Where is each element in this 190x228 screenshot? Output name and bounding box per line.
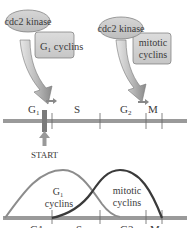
bottom-phase-g1: G1 (30, 223, 43, 228)
g1-cyclins-box: G1 cyclins (35, 32, 83, 58)
cdc2-kinase-label-left: cdc2 kinase (5, 16, 52, 27)
g1-curve-label-2: cyclins (45, 198, 73, 209)
cdc2-kinase-label-right: cdc2 kinase (98, 23, 145, 34)
mitotic-box-label-1: mitotic (139, 37, 168, 48)
start-up-arrow-icon (39, 131, 50, 146)
phase-label-m: M (148, 103, 158, 115)
phase-label-g2: G2 (120, 103, 132, 117)
cell-cycle-diagram: G1 cyclins cdc2 kinase mitotic cyclins c… (0, 0, 190, 228)
mitotic-curve-label-2: cyclins (113, 197, 141, 208)
mitotic-cyclins-box: mitotic cyclins (133, 33, 171, 64)
cdc2-kinase-ellipse-left: cdc2 kinase (5, 10, 52, 32)
phase-label-s: S (74, 103, 80, 115)
bottom-axis (3, 216, 187, 220)
cyclin-level-graph: G1 cyclins mitotic cyclins G1 S G2 M (3, 170, 187, 228)
cell-cycle-axis: G1 S G2 M START (3, 98, 187, 160)
mitotic-box-label-2: cyclins (139, 49, 167, 60)
bottom-phase-g2: G2 (120, 223, 133, 228)
g1-curve-label-1: G1 (53, 186, 63, 198)
phase-label-g1: G1 (28, 103, 40, 117)
bottom-phase-m: M (150, 223, 160, 228)
start-checkpoint-bar (42, 110, 47, 132)
mitotic-curve-label-1: mitotic (113, 185, 142, 196)
start-label: START (31, 150, 59, 160)
bottom-phase-s: S (76, 223, 82, 228)
